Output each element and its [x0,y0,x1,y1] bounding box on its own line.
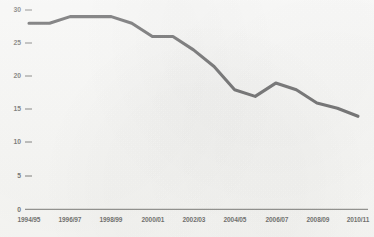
chart-canvas: 30 25 20 15 10 5 0 1994/95 1996/97 1998/… [0,0,374,237]
y-tick-label-10: 10 [13,138,21,145]
y-tick-label-15: 15 [13,105,21,112]
x-tick-label-2000-01: 2000/01 [142,216,165,223]
line-chart-figure: 30 25 20 15 10 5 0 1994/95 1996/97 1998/… [0,0,374,237]
x-tick-label-2008-09: 2008/09 [307,216,330,223]
y-tick-label-0: 0 [17,206,21,213]
y-tick-label-30: 30 [13,6,21,13]
y-tick-label-25: 25 [13,39,21,46]
y-tick-label-5: 5 [17,172,21,179]
x-tick-label-2010-11: 2010/11 [347,216,370,223]
y-axis-labels: 30 25 20 15 10 5 0 [13,6,21,212]
x-tick-label-1994-95: 1994/95 [18,216,41,223]
data-series-line [29,17,358,117]
x-tick-label-1998-99: 1998/99 [100,216,123,223]
x-tick-label-2002-03: 2002/03 [183,216,206,223]
y-axis-ticks [25,10,32,176]
x-tick-label-2006-07: 2006/07 [266,216,289,223]
x-axis-labels: 1994/95 1996/97 1998/99 2000/01 2002/03 … [18,216,370,223]
x-tick-label-2004-05: 2004/05 [224,216,247,223]
y-tick-label-20: 20 [13,72,21,79]
x-tick-label-1996-97: 1996/97 [59,216,82,223]
